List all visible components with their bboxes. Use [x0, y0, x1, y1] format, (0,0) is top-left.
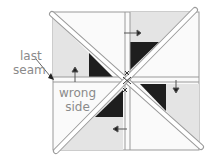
wrong-side-label: wrong side	[59, 86, 96, 114]
last-seam-label: last seam	[13, 49, 46, 77]
pinwheel-block-diagram	[0, 0, 210, 161]
